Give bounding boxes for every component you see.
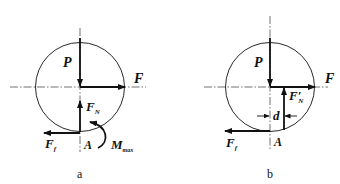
label-d: d (273, 108, 280, 123)
label-P: P (63, 55, 72, 70)
label-A: A (83, 138, 92, 152)
label-Mmax: Mmax (110, 137, 133, 153)
label-Ff: Ff (44, 136, 57, 153)
figure-a: P F FN Ff A Mmax a (10, 28, 146, 181)
label-FN: FN (85, 99, 101, 116)
label-F: F (324, 71, 335, 86)
moment-Mmax-arrow (90, 122, 106, 148)
label-A: A (273, 135, 282, 149)
label-F: F (133, 71, 144, 86)
caption-a: a (77, 167, 83, 181)
label-P: P (254, 55, 263, 70)
label-FN-prime: F′N (288, 88, 304, 105)
wheel-force-diagrams: P F FN Ff A Mmax a P F F′N d Ff A b (0, 0, 340, 184)
caption-b: b (267, 167, 273, 181)
label-Ff: Ff (225, 135, 238, 152)
figure-b: P F F′N d Ff A b (204, 16, 335, 181)
